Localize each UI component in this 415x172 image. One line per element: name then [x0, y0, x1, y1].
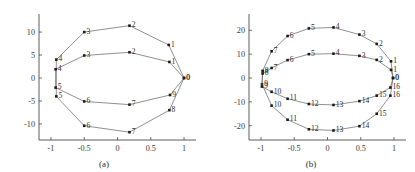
data-point-marker[interactable]	[332, 26, 335, 29]
data-point-marker[interactable]	[308, 27, 311, 30]
data-point-marker[interactable]	[358, 55, 361, 58]
data-point-marker[interactable]	[375, 59, 378, 62]
data-point-label: 5	[58, 82, 62, 91]
data-point-marker[interactable]	[270, 91, 273, 94]
data-point-label: 12	[311, 99, 319, 108]
y-tick-label: 0	[31, 74, 35, 83]
plot-a-series: 012345678012345679	[54, 20, 190, 136]
figure-container: -10-50510-1-0.500.51 012345678012345679 …	[0, 0, 415, 172]
data-point-label: 6	[86, 96, 90, 105]
data-point-label: 3	[86, 50, 90, 59]
data-point-marker[interactable]	[83, 31, 86, 34]
data-point-label: 10	[274, 87, 282, 96]
data-point-marker[interactable]	[54, 86, 57, 89]
y-tick-label: -10	[234, 98, 245, 107]
data-point-label: 0	[395, 73, 399, 82]
data-point-marker[interactable]	[375, 112, 378, 115]
data-point-marker[interactable]	[261, 85, 264, 88]
data-point-label: 5	[58, 91, 62, 100]
data-point-marker[interactable]	[286, 35, 289, 38]
plot-a-axes: -10-50510-1-0.500.51	[24, 14, 196, 153]
data-point-marker[interactable]	[332, 104, 335, 107]
data-point-label: 5	[311, 49, 315, 58]
data-point-label: 2	[132, 20, 136, 29]
data-point-label: 4	[58, 54, 62, 63]
data-point-marker[interactable]	[83, 100, 86, 103]
data-point-marker[interactable]	[169, 94, 172, 97]
data-point-marker[interactable]	[128, 51, 131, 54]
data-point-marker[interactable]	[308, 103, 311, 106]
data-point-label: 3	[86, 27, 90, 36]
data-point-label: 16	[393, 90, 401, 99]
data-point-marker[interactable]	[332, 129, 335, 132]
data-point-marker[interactable]	[55, 95, 58, 98]
data-point-marker[interactable]	[390, 60, 393, 63]
data-point-label: 4	[336, 48, 340, 57]
data-point-label: 6	[290, 55, 294, 64]
data-point-label: 15	[379, 90, 387, 99]
x-tick-label: 0.5	[146, 144, 156, 153]
data-curve	[262, 54, 393, 105]
panel-b-caption: (b)	[306, 159, 317, 169]
data-point-label: 7	[132, 99, 136, 108]
data-point-marker[interactable]	[375, 43, 378, 46]
data-point-marker[interactable]	[270, 104, 273, 107]
data-point-marker[interactable]	[83, 124, 86, 127]
data-point-marker[interactable]	[286, 97, 289, 100]
data-point-marker[interactable]	[389, 86, 392, 89]
data-point-marker[interactable]	[286, 59, 289, 62]
data-point-marker[interactable]	[83, 54, 86, 57]
x-tick-label: 1	[392, 144, 396, 153]
data-point-label: 2	[379, 55, 383, 64]
plot-b-series: 0123456789101112131415160123456789101112…	[261, 22, 401, 134]
data-point-label: 4	[58, 64, 62, 73]
data-point-marker[interactable]	[128, 131, 131, 134]
data-point-label: 16	[393, 82, 401, 91]
data-point-marker[interactable]	[168, 109, 171, 112]
axis-spines	[249, 14, 406, 140]
data-point-marker[interactable]	[261, 72, 264, 75]
data-point-marker[interactable]	[54, 68, 57, 71]
x-tick-label: -1	[258, 144, 265, 153]
y-tick-label: -5	[28, 97, 35, 106]
data-point-marker[interactable]	[308, 128, 311, 131]
data-point-label: 0	[186, 73, 190, 82]
data-point-marker[interactable]	[389, 94, 392, 97]
data-point-marker[interactable]	[358, 33, 361, 36]
data-point-label: 1	[171, 40, 175, 49]
data-point-marker[interactable]	[128, 103, 131, 106]
y-tick-label: -20	[234, 122, 245, 131]
data-point-marker[interactable]	[270, 50, 273, 53]
data-point-marker[interactable]	[392, 77, 395, 80]
data-point-label: 11	[290, 114, 298, 123]
data-curve	[56, 26, 184, 133]
data-point-marker[interactable]	[358, 125, 361, 128]
data-point-marker[interactable]	[168, 61, 171, 64]
x-tick-label: -0.5	[288, 144, 301, 153]
data-point-marker[interactable]	[167, 44, 170, 47]
data-point-marker[interactable]	[358, 100, 361, 103]
plot-panel-a: -10-50510-1-0.500.51 012345678012345679 …	[0, 0, 208, 172]
data-point-label: 12	[311, 124, 319, 133]
x-tick-label: -1	[48, 144, 55, 153]
data-point-marker[interactable]	[55, 58, 58, 61]
data-point-marker[interactable]	[332, 52, 335, 55]
data-point-label: 7	[274, 63, 278, 72]
data-point-marker[interactable]	[308, 53, 311, 56]
data-point-marker[interactable]	[128, 24, 131, 27]
plot-a-svg: -10-50510-1-0.500.51 012345678012345679 …	[0, 0, 208, 172]
data-point-label: 9	[264, 81, 268, 90]
data-point-marker[interactable]	[390, 69, 393, 72]
data-point-marker[interactable]	[270, 67, 273, 70]
x-tick-label: 0.5	[356, 144, 366, 153]
x-tick-label: 1	[182, 144, 186, 153]
y-tick-label: 10	[27, 28, 35, 37]
data-point-marker[interactable]	[286, 118, 289, 121]
axis-spines	[39, 14, 196, 140]
data-point-marker[interactable]	[375, 94, 378, 97]
data-point-marker[interactable]	[183, 77, 186, 80]
data-point-label: 1	[393, 65, 397, 74]
data-point-marker[interactable]	[261, 70, 264, 73]
data-point-label: 8	[265, 68, 269, 77]
data-point-label: 10	[274, 100, 282, 109]
